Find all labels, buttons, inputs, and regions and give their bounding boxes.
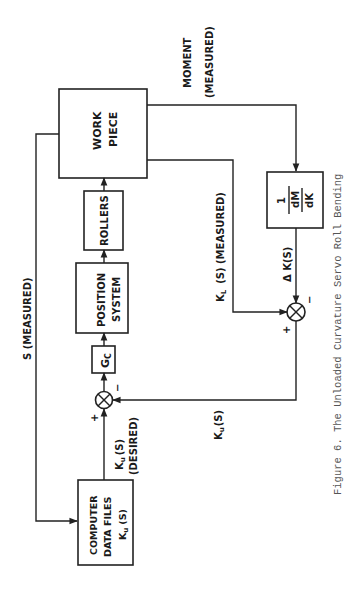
controller-gc-block: GC (92, 346, 115, 373)
junction-lower-minus: − (304, 296, 315, 304)
summing-junction-lower: + − (281, 296, 315, 334)
moment-gain-dk: dK (304, 192, 315, 208)
ku-feedback-line (113, 321, 296, 400)
junction-upper-plus: + (89, 414, 100, 422)
ku-feedback-label: Ku(S) (213, 410, 226, 440)
summing-junction-upper: + − (89, 384, 123, 422)
work-piece-label-2: PIECE (107, 112, 120, 147)
ku-desired-desc: (DESIRED) (128, 417, 139, 475)
computer-label-1: COMPUTER (88, 495, 99, 555)
rollers-label: ROLLERS (99, 195, 110, 246)
moment-gain-numerator: 1 (276, 197, 287, 204)
work-piece-block: WORK PIECE (59, 89, 147, 178)
moment-line (147, 105, 296, 171)
position-system-label-1: POSITION (96, 273, 107, 327)
moment-label-1: MOMENT (182, 37, 193, 88)
s-measured-label: S (MEASURED) (22, 278, 33, 361)
computer-data-files-block: COMPUTER DATA FILES Ku(S) (78, 480, 133, 565)
figure-caption: Figure 6. The Unloaded Curvature Servo R… (332, 174, 344, 495)
junction-upper-minus: − (112, 384, 123, 392)
block-diagram: WORK PIECE ROLLERS POSITION SYSTEM GC + … (0, 0, 357, 595)
work-piece-label-1: WORK (91, 111, 104, 150)
position-system-label-2: SYSTEM (111, 277, 122, 322)
moment-gain-block: 1 dM dK (267, 172, 323, 228)
moment-gain-dm: dM (290, 191, 301, 208)
kl-measured-label: KL(S) (MEASURED) (215, 192, 228, 302)
junction-lower-plus: + (281, 326, 292, 334)
delta-k-label: Δ K(S) (282, 247, 293, 282)
rollers-block: ROLLERS (84, 191, 123, 250)
ku-desired-label: Ku(S) (114, 439, 127, 470)
position-system-block: POSITION SYSTEM (76, 263, 128, 333)
moment-label-2: (MEASURED) (204, 26, 215, 98)
s-measured-line (36, 134, 77, 521)
computer-label-2: DATA FILES (102, 497, 113, 557)
